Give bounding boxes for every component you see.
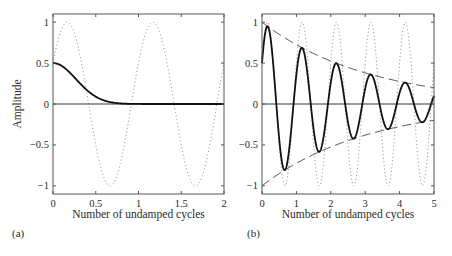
y-tick-label: 1 (44, 17, 49, 28)
panel-b: 012345 −1−0.500.51 Number of undamped cy… (239, 14, 437, 240)
y-tick-label: −1 (38, 180, 49, 191)
y-tick-label: 0.5 (36, 58, 49, 69)
panel-a: 00.511.52 −1−0.500.51 Number of undamped… (11, 14, 227, 240)
panel-label-b: (b) (247, 227, 260, 240)
x-axis-label: Number of undamped cycles (72, 208, 205, 221)
panel-a-plot-area (53, 22, 224, 186)
panel-label-a: (a) (12, 227, 25, 240)
y-tick-label: 1 (253, 17, 258, 28)
x-tick-label: 0 (50, 198, 55, 209)
upper-envelope-curve (262, 22, 434, 87)
y-tick-labels: −1−0.500.51 (239, 17, 258, 192)
y-tick-labels: −1−0.500.51 (30, 17, 49, 192)
x-tick-label: 0 (259, 198, 264, 209)
y-tick-label: 0.5 (245, 58, 258, 69)
y-axis-label: Amplitude (11, 79, 24, 128)
y-tick-label: −0.5 (239, 139, 258, 150)
y-tick-label: −1 (247, 180, 258, 191)
overdamped-response-curve (53, 63, 224, 104)
y-tick-label: 0 (253, 99, 258, 110)
panel-b-plot-area (262, 22, 434, 186)
figure: 00.511.52 −1−0.500.51 Number of undamped… (0, 0, 452, 256)
damped-oscillation-curve (262, 26, 434, 170)
y-tick-label: −0.5 (30, 139, 49, 150)
x-tick-label: 2 (221, 198, 226, 209)
lower-envelope-curve (262, 120, 434, 185)
x-axis-label: Number of undamped cycles (282, 208, 415, 221)
y-tick-label: 0 (44, 99, 49, 110)
x-tick-label: 5 (431, 198, 436, 209)
